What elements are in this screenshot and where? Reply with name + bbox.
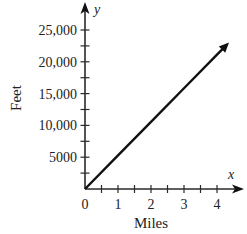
y-axis-variable: y [92, 2, 101, 17]
chart: 01234500010,00015,00020,00025,000 y x Mi… [0, 0, 247, 234]
x-tick-label: 2 [148, 197, 155, 212]
x-axis-title: Miles [134, 215, 168, 231]
series-line [85, 45, 227, 189]
y-axis-title: Feet [8, 84, 24, 111]
ticks: 01234500010,00015,00020,00025,000 [39, 23, 221, 212]
x-tick-label: 3 [181, 197, 188, 212]
y-tick-label: 15,000 [39, 87, 78, 102]
y-tick-label: 5000 [49, 150, 77, 165]
y-tick-label: 25,000 [39, 23, 78, 38]
x-tick-label: 1 [115, 197, 122, 212]
y-tick-label: 20,000 [39, 55, 78, 70]
x-tick-label: 0 [82, 197, 89, 212]
x-axis-variable: x [227, 167, 235, 182]
axes [81, 2, 245, 194]
y-tick-label: 10,000 [39, 118, 78, 133]
x-tick-label: 4 [214, 197, 221, 212]
data-series [85, 42, 229, 189]
